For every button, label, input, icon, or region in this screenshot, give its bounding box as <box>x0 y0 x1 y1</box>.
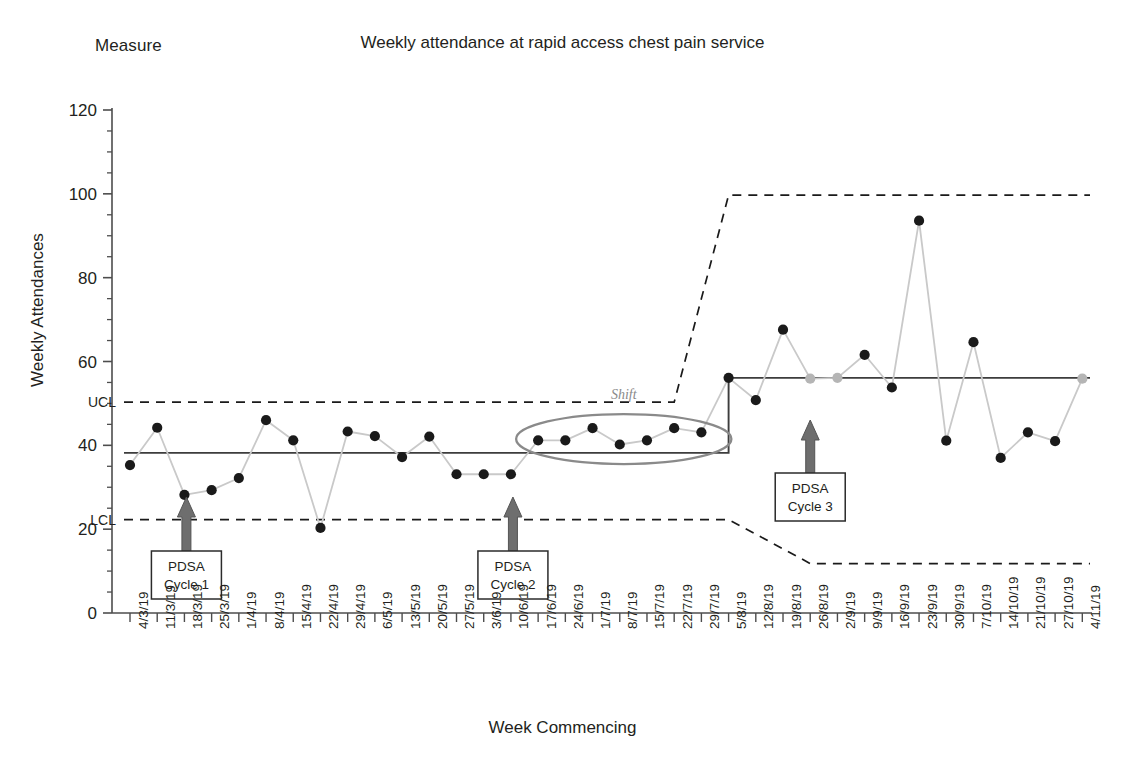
data-point[interactable] <box>832 373 842 383</box>
data-point[interactable] <box>397 452 407 462</box>
data-point[interactable] <box>941 436 951 446</box>
shift-highlight-ellipse <box>516 414 731 464</box>
pdsa-arrow-icon <box>801 420 819 473</box>
pdsa-annotation[interactable]: PDSACycle 2 <box>478 497 548 599</box>
data-point[interactable] <box>587 423 597 433</box>
data-point[interactable] <box>506 469 516 479</box>
control-limits-group: UCLLCL <box>88 195 1090 563</box>
data-point[interactable] <box>207 485 217 495</box>
axes-group: 020406080100120 <box>69 101 1092 623</box>
data-point[interactable] <box>887 382 897 392</box>
pdsa-label-line1: PDSA <box>495 559 532 574</box>
data-point[interactable] <box>179 490 189 500</box>
y-tick-label: 80 <box>78 269 97 288</box>
pdsa-label-line1: PDSA <box>792 481 829 496</box>
data-point[interactable] <box>125 460 135 470</box>
data-point[interactable] <box>642 435 652 445</box>
pdsa-label-line2: Cycle 2 <box>490 577 535 592</box>
lcl-label: LCL <box>90 512 116 528</box>
data-point[interactable] <box>860 350 870 360</box>
data-point[interactable] <box>723 373 733 383</box>
ucl-line <box>124 195 1090 402</box>
spc-chart-page: Measure Weekly attendance at rapid acces… <box>0 0 1125 765</box>
y-tick-label: 120 <box>69 101 97 120</box>
data-point[interactable] <box>533 435 543 445</box>
pdsa-arrow-icon <box>504 497 522 551</box>
pdsa-label-line2: Cycle 1 <box>164 577 209 592</box>
data-point[interactable] <box>261 415 271 425</box>
data-point[interactable] <box>479 469 489 479</box>
ucl-label: UCL <box>88 394 116 410</box>
series-markers <box>125 216 1088 533</box>
y-tick-label: 40 <box>78 436 97 455</box>
data-point[interactable] <box>996 453 1006 463</box>
pdsa-label-line2: Cycle 3 <box>788 499 833 514</box>
data-point[interactable] <box>315 523 325 533</box>
data-point[interactable] <box>914 216 924 226</box>
shift-label: Shift <box>611 387 638 402</box>
data-point[interactable] <box>1050 436 1060 446</box>
pdsa-annotation[interactable]: PDSACycle 3 <box>775 420 845 521</box>
lcl-line <box>124 520 1090 564</box>
y-tick-label: 100 <box>69 185 97 204</box>
y-tick-label: 0 <box>88 604 97 623</box>
pdsa-arrow-icon <box>177 497 195 551</box>
data-point[interactable] <box>968 337 978 347</box>
data-point[interactable] <box>615 439 625 449</box>
data-point[interactable] <box>805 374 815 384</box>
data-point[interactable] <box>451 469 461 479</box>
series-line <box>130 221 1082 528</box>
data-point[interactable] <box>778 325 788 335</box>
data-point[interactable] <box>560 435 570 445</box>
data-point[interactable] <box>424 431 434 441</box>
data-point[interactable] <box>343 426 353 436</box>
data-point[interactable] <box>751 395 761 405</box>
data-point[interactable] <box>152 423 162 433</box>
data-point[interactable] <box>669 423 679 433</box>
data-point[interactable] <box>370 431 380 441</box>
data-point[interactable] <box>234 473 244 483</box>
data-point[interactable] <box>288 435 298 445</box>
data-point[interactable] <box>1077 374 1087 384</box>
pdsa-label-line1: PDSA <box>168 559 205 574</box>
data-point[interactable] <box>1023 427 1033 437</box>
pdsa-annotation[interactable]: PDSACycle 1 <box>151 497 221 599</box>
data-point[interactable] <box>696 427 706 437</box>
chart-canvas: 020406080100120UCLLCLShiftPDSACycle 1PDS… <box>0 0 1125 765</box>
y-tick-label: 60 <box>78 353 97 372</box>
